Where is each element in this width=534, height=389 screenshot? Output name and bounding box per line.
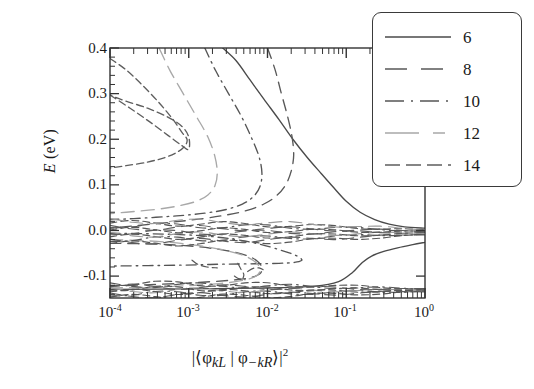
x-tick-3-exponent: -1 (348, 302, 356, 313)
x-label-bracket-close: ⟩| (272, 348, 282, 367)
legend-item-8[interactable]: 8 (383, 59, 515, 79)
legend-label-8: 8 (463, 61, 472, 78)
x-tick-0: 10-4 (80, 303, 140, 320)
legend-key-10 (383, 94, 453, 108)
x-tick-3-mantissa: 10 (333, 304, 348, 320)
y-axis-label-unit: (eV) (41, 129, 58, 163)
legend-label-6: 6 (463, 29, 472, 46)
x-tick-1: 10-3 (158, 303, 218, 320)
y-tick-1: 0.3 (61, 86, 107, 101)
legend-label-14: 14 (463, 157, 480, 174)
y-tick-5: -0.1 (61, 268, 107, 283)
x-tick-4: 100 (394, 303, 454, 320)
y-tick-0: 0.4 (61, 41, 107, 56)
x-label-sub-1: kL (212, 354, 226, 370)
legend-item-12[interactable]: 12 (383, 123, 515, 143)
x-label-exponent: 2 (283, 346, 289, 358)
x-tick-0-mantissa: 10 (98, 304, 113, 320)
legend-key-14 (383, 158, 453, 172)
x-label-phi-1: φ (202, 348, 212, 367)
x-axis-label: |⟨φkL | φ−kR⟩|2 (0, 346, 480, 371)
y-axis-label: E (eV) (41, 91, 59, 211)
legend-box: 6 8 10 12 14 (372, 12, 522, 187)
x-label-separator: | (226, 348, 238, 367)
legend-item-14[interactable]: 14 (383, 155, 515, 175)
x-tick-2-exponent: -2 (270, 302, 278, 313)
y-tick-2: 0.2 (61, 132, 107, 147)
x-tick-3: 10-1 (315, 303, 375, 320)
legend-label-10: 10 (463, 93, 480, 110)
x-label-sub-2: −kR (248, 354, 272, 370)
legend-item-10[interactable]: 10 (383, 91, 515, 111)
y-tick-4: 0.0 (61, 223, 107, 238)
x-tick-4-exponent: 0 (429, 302, 434, 313)
legend-key-8 (383, 62, 453, 76)
x-tick-2: 10-2 (237, 303, 297, 320)
x-tick-0-exponent: -4 (113, 302, 121, 313)
x-label-phi-2: φ (238, 348, 248, 367)
x-tick-4-mantissa: 10 (414, 304, 429, 320)
y-tick-3: 0.1 (61, 177, 107, 192)
x-tick-2-mantissa: 10 (255, 304, 270, 320)
x-tick-1-mantissa: 10 (176, 304, 191, 320)
y-axis-label-symbol: E (41, 163, 58, 173)
x-label-bracket-open: |⟨ (192, 348, 202, 367)
x-tick-1-exponent: -3 (191, 302, 199, 313)
figure-root: 0.4 0.3 0.2 0.1 0.0 -0.1 E (eV) 10-4 10-… (0, 0, 534, 389)
legend-item-6[interactable]: 6 (383, 27, 515, 47)
legend-label-12: 12 (463, 125, 480, 142)
legend-key-12 (383, 126, 453, 140)
legend-key-6 (383, 30, 453, 44)
